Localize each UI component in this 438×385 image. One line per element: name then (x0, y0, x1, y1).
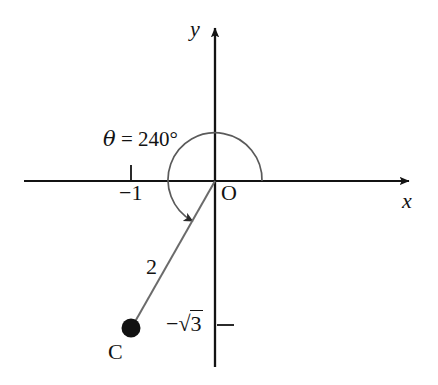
minus-sign: − (166, 311, 178, 336)
radicand-value: 3 (190, 310, 203, 336)
radical-sign: √ (178, 313, 190, 335)
x-axis-label: x (402, 190, 412, 212)
point-c-label: C (108, 341, 123, 363)
diagram-svg (0, 0, 438, 385)
equals-sign: = (121, 127, 133, 151)
x-tick-label-neg-one: −1 (119, 182, 142, 204)
segment-length-label: 2 (146, 256, 157, 278)
point-c-marker (122, 319, 141, 338)
y-tick-label-neg-root-three: −√3 (166, 313, 203, 335)
angle-label: θ = 240° (103, 129, 178, 150)
theta-symbol: θ (103, 127, 116, 151)
y-axis-label: y (190, 18, 200, 40)
figure-canvas: y x O −1 −√3 θ = 240° 2 C (0, 0, 438, 385)
origin-label: O (221, 182, 237, 204)
angle-value: 240° (138, 127, 178, 151)
